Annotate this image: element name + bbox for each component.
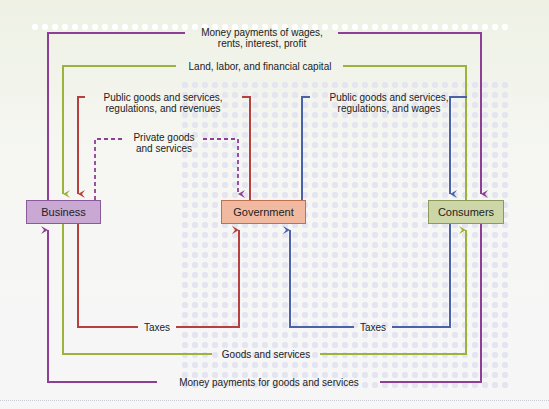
label-private-goods-line2: and services — [122, 143, 206, 154]
label-public-goods-consumers-line2: regulations, and wages — [309, 103, 469, 114]
node-consumers: Consumers — [428, 200, 504, 224]
label-land-labor: Land, labor, and financial capital — [178, 61, 342, 72]
label-public-goods-business: Public goods and services, regulations, … — [86, 92, 240, 114]
label-money-wages: Money payments of wages, rents, interest… — [187, 27, 337, 49]
label-money-wages-line2: rents, interest, profit — [187, 38, 337, 49]
label-taxes-business: Taxes — [138, 322, 176, 333]
label-land-labor-text: Land, labor, and financial capital — [189, 61, 332, 72]
node-government-label: Government — [233, 206, 294, 218]
label-public-goods-business-line2: regulations, and revenues — [86, 103, 240, 114]
flow-taxes-consumers — [290, 224, 450, 327]
flow-money-wages — [48, 33, 481, 200]
node-business-label: Business — [41, 206, 86, 218]
flow-taxes-business — [78, 224, 239, 327]
node-business: Business — [26, 200, 101, 224]
label-goods-services-text: Goods and services — [222, 349, 310, 360]
label-public-goods-consumers-line1: Public goods and services, — [309, 92, 469, 103]
label-private-goods-line1: Private goods — [122, 132, 206, 143]
label-money-wages-line1: Money payments of wages, — [187, 27, 337, 38]
bottom-divider — [0, 400, 549, 401]
node-consumers-label: Consumers — [438, 206, 494, 218]
label-taxes-consumers-text: Taxes — [360, 322, 386, 333]
label-taxes-business-text: Taxes — [144, 322, 170, 333]
node-government: Government — [221, 200, 306, 224]
label-public-goods-consumers: Public goods and services, regulations, … — [309, 92, 469, 114]
diagram-canvas: Business Government Consumers Money paym… — [0, 0, 549, 409]
label-goods-services: Goods and services — [212, 349, 320, 360]
label-money-goods: Money payments for goods and services — [158, 377, 380, 388]
label-money-goods-text: Money payments for goods and services — [179, 377, 359, 388]
label-private-goods: Private goods and services — [122, 132, 206, 154]
flow-goods-services — [63, 224, 466, 354]
label-public-goods-business-line1: Public goods and services, — [86, 92, 240, 103]
label-taxes-consumers: Taxes — [354, 322, 392, 333]
